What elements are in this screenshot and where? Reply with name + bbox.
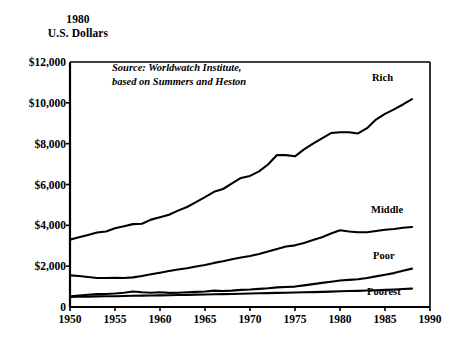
y-tick-label: 0 (4, 301, 66, 313)
y-tick-label: $12,000 (4, 56, 66, 68)
y-tick-label: $6,000 (4, 179, 66, 191)
y-tick-label: $10,000 (4, 97, 66, 109)
series-line-middle (70, 227, 412, 278)
source-annotation-line1: Source: Worldwatch Institute, (112, 61, 246, 75)
y-tick-label: $4,000 (4, 219, 66, 231)
y-tick-label: $2,000 (4, 260, 66, 272)
x-tick-label: 1960 (149, 313, 172, 325)
x-tick-label: 1965 (194, 313, 217, 325)
x-tick-label: 1955 (104, 313, 127, 325)
series-label-middle: Middle (371, 204, 403, 215)
x-tick-label: 1985 (374, 313, 397, 325)
y-tick-label: $8,000 (4, 138, 66, 150)
x-tick-label: 1980 (329, 313, 352, 325)
y-axis-tick-labels: $12,000$10,000$8,000$6,000$4,000$2,0000 (0, 0, 66, 338)
source-annotation: Source: Worldwatch Institute, based on S… (112, 61, 246, 89)
series-line-poor (70, 269, 412, 297)
series-line-rich (70, 99, 412, 239)
x-tick-label: 1970 (239, 313, 262, 325)
x-tick-label: 1990 (419, 313, 442, 325)
data-series-group (70, 99, 412, 297)
axis-lines (70, 62, 430, 307)
x-tick-label: 1950 (59, 313, 82, 325)
series-label-rich: Rich (372, 72, 393, 83)
series-label-poorest: Poorest (367, 286, 401, 297)
source-annotation-line2: based on Summers and Heston (112, 75, 246, 89)
x-tick-label: 1975 (284, 313, 307, 325)
series-label-poor: Poor (373, 250, 395, 261)
chart-figure: 1980 U.S. Dollars $12,000$10,000$8,000$6… (0, 0, 467, 338)
